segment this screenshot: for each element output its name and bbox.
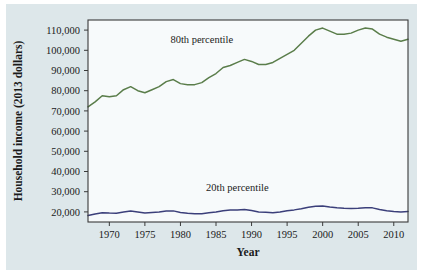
series-label-80th-percentile: 80th percentile: [170, 34, 233, 45]
y-tick-label: 90,000: [51, 65, 80, 76]
x-tick-label: 1975: [134, 229, 155, 240]
x-tick-label: 2005: [348, 229, 369, 240]
x-tick-label: 1985: [206, 229, 227, 240]
y-tick-label: 60,000: [51, 126, 80, 137]
x-tick-label: 1970: [99, 229, 120, 240]
y-tick-label: 110,000: [46, 25, 80, 36]
y-tick-label: 20,000: [51, 207, 80, 218]
x-tick-label: 2000: [312, 229, 333, 240]
y-tick-label: 50,000: [51, 146, 80, 157]
line-chart: 20,00030,00040,00050,00060,00070,00080,0…: [0, 0, 423, 277]
y-tick-label: 40,000: [51, 166, 80, 177]
x-tick-label: 1990: [241, 229, 262, 240]
x-tick-label: 1995: [277, 229, 298, 240]
y-axis-title: Household income (2013 dollars): [12, 40, 25, 201]
x-tick-label: 2010: [383, 229, 404, 240]
y-tick-label: 100,000: [46, 45, 80, 56]
figure-container: 20,00030,00040,00050,00060,00070,00080,0…: [0, 0, 423, 277]
y-axis-ticks: 20,00030,00040,00050,00060,00070,00080,0…: [46, 25, 88, 218]
x-axis-ticks: 197019751980198519901995200020052010: [99, 222, 404, 240]
x-axis-title: Year: [237, 246, 260, 258]
y-tick-label: 70,000: [51, 106, 80, 117]
series-label-20th-percentile: 20th percentile: [206, 182, 269, 193]
x-tick-label: 1980: [170, 229, 191, 240]
y-tick-label: 30,000: [51, 186, 80, 197]
chart-svg: 20,00030,00040,00050,00060,00070,00080,0…: [0, 0, 423, 277]
y-tick-label: 80,000: [51, 85, 80, 96]
